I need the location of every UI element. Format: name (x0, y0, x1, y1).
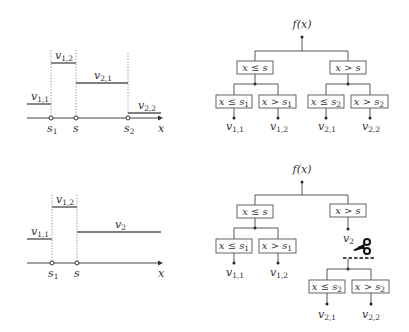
leaf-v22: v2,2 (362, 308, 380, 322)
pruned-node-dot-icon (347, 228, 350, 231)
segment-label-v22: v2,2 (138, 99, 156, 113)
leaf-dot-icon (325, 117, 328, 120)
bottom-step-plot: s1 s x v1,1 v1,2 v2 (27, 193, 165, 281)
segment-label-v11: v1,1 (31, 225, 49, 239)
scissors-icon (353, 239, 370, 254)
root-label: f(x) (292, 163, 312, 176)
segment-label-v11: v1,1 (31, 90, 49, 104)
leaf-dot-icon (326, 303, 329, 306)
node-x-gt-s: x > s (330, 61, 366, 74)
node-x-gt-s2: x > s2 (352, 280, 389, 294)
leaf-dot-icon (277, 262, 280, 265)
node-x-le-s2: x ≤ s2 (308, 95, 344, 109)
tick-s1 (50, 261, 54, 265)
leaf-v11: v1,1 (226, 120, 244, 134)
pruned-node-v2: v2 (343, 232, 354, 246)
segment-label-v2: v2 (115, 218, 126, 232)
tick-label-s2: s2 (124, 122, 135, 136)
svg-text:x > s: x > s (335, 205, 361, 216)
node-x-gt-s1: x > s1 (259, 95, 296, 109)
node-x-le-s: x ≤ s (237, 205, 273, 218)
tick-s (75, 261, 79, 265)
leaf-dot-icon (233, 117, 236, 120)
node-x-gt-s: x > s (330, 204, 366, 217)
top-decision-tree: f(x) x ≤ s x > s x ≤ s1 (216, 18, 388, 134)
node-x-gt-s2: x > s2 (351, 95, 388, 109)
node-x-le-s1: x ≤ s1 (216, 239, 252, 253)
svg-text:x ≤ s: x ≤ s (242, 62, 268, 73)
svg-text:x > s: x > s (335, 62, 361, 73)
leaf-v11: v1,1 (226, 266, 244, 280)
tick-s1 (49, 116, 53, 120)
tick-label-s1: s1 (47, 122, 57, 136)
node-x-le-s2: x ≤ s2 (309, 280, 345, 294)
segment-label-v21: v2,1 (94, 69, 112, 83)
leaf-v21: v2,1 (318, 120, 336, 134)
leaf-v12: v1,2 (270, 120, 288, 134)
tick-label-s: s (73, 122, 79, 135)
tick-s2 (126, 116, 130, 120)
bottom-decision-tree: f(x) x ≤ s x > s x ≤ s1 x > s1 (216, 163, 389, 322)
segment-label-v12: v1,2 (55, 49, 73, 63)
leaf-v22: v2,2 (362, 120, 380, 134)
svg-text:x ≤ s: x ≤ s (242, 206, 268, 217)
axis-label-x: x (158, 122, 165, 135)
leaf-v21: v2,1 (318, 308, 336, 322)
top-step-plot: s1 s s2 x v1,1 v1,2 v2,1 v2,2 (27, 49, 165, 136)
leaf-dot-icon (370, 303, 373, 306)
leaf-dot-icon (277, 117, 280, 120)
leaf-dot-icon (369, 117, 372, 120)
tick-s (74, 116, 78, 120)
node-x-le-s: x ≤ s (237, 61, 273, 74)
node-x-le-s1: x ≤ s1 (216, 95, 252, 109)
root-label: f(x) (292, 18, 312, 31)
x-axis-arrow-icon (158, 116, 163, 121)
leaf-dot-icon (233, 262, 236, 265)
segment-label-v12: v1,2 (56, 193, 74, 207)
tick-label-s: s (74, 267, 80, 280)
x-axis-arrow-icon (158, 261, 163, 266)
leaf-v12: v1,2 (270, 266, 288, 280)
tick-label-s1: s1 (48, 267, 58, 281)
regression-tree-pruning-diagram: s1 s s2 x v1,1 v1,2 v2,1 v2,2 f(x) x ≤ s… (0, 0, 409, 332)
axis-label-x: x (158, 267, 165, 280)
node-x-gt-s1: x > s1 (259, 239, 296, 253)
